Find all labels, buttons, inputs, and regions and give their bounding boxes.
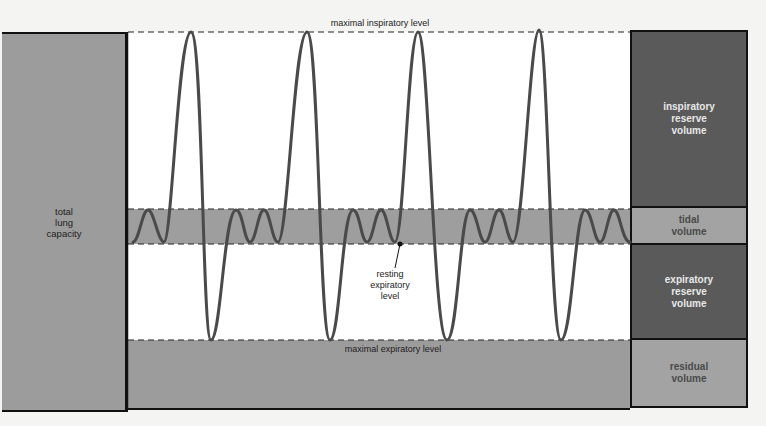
rel-line-3: level	[355, 291, 425, 302]
spirogram-svg	[0, 0, 766, 426]
max-inspiratory-label: maximal inspiratory level	[300, 18, 460, 29]
resting-expiratory-label: resting expiratory level	[355, 269, 425, 302]
rel-line-1: resting	[355, 269, 425, 280]
max-expiratory-label: maximal expiratory level	[308, 344, 478, 355]
rel-line-2: expiratory	[355, 280, 425, 291]
resting-expiratory-pointer	[395, 244, 400, 268]
